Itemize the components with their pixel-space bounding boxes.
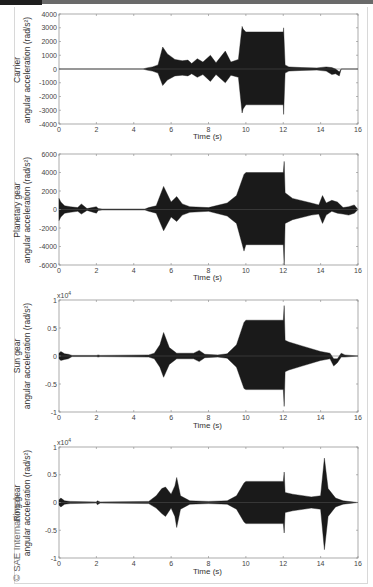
y-tick-label: 0.5 <box>47 471 57 478</box>
y-tick-label: -1 <box>51 555 57 562</box>
x-tick-label: 8 <box>207 560 211 567</box>
x-tick-label: 8 <box>207 126 211 133</box>
x-tick-label: 12 <box>279 560 287 567</box>
x-tick-label: 12 <box>279 267 287 274</box>
x-tick-label: 14 <box>317 560 325 567</box>
x-tick-label: 14 <box>317 126 325 133</box>
y-tick-label: -2000 <box>39 93 57 100</box>
y-tick-label: 1 <box>53 444 57 451</box>
x-tick-label: 4 <box>132 126 136 133</box>
x-tick-label: 6 <box>169 267 173 274</box>
x-tick-label: 0 <box>57 414 61 421</box>
y-tick-label: -2000 <box>39 225 57 232</box>
x-tick-label: 6 <box>169 560 173 567</box>
x-tick-label: 14 <box>317 267 325 274</box>
x-tick-label: 16 <box>354 560 362 567</box>
chart-1: 0246810121416-6000-4000-2000020004000600… <box>39 151 362 275</box>
y-tick-label: 1 <box>53 297 57 304</box>
y-tick-label: -0.5 <box>45 381 57 388</box>
y-tick-label: 0 <box>53 66 57 73</box>
x-tick-label: 16 <box>354 267 362 274</box>
x-tick-label: 4 <box>132 267 136 274</box>
y-tick-label: 4000 <box>41 169 57 176</box>
y-tick-label: -6000 <box>39 262 57 269</box>
y-tick-label: 0 <box>53 499 57 506</box>
chart-3: 0246810121416-1-0.500.51 <box>45 444 362 568</box>
x-tick-label: 8 <box>207 414 211 421</box>
x-tick-label: 2 <box>94 414 98 421</box>
y-tick-label: 1000 <box>41 52 57 59</box>
x-tick-label: 8 <box>207 267 211 274</box>
x-tick-label: 10 <box>242 126 250 133</box>
y-tick-label: 0 <box>53 353 57 360</box>
x-tick-label: 16 <box>354 414 362 421</box>
x-tick-label: 0 <box>57 126 61 133</box>
y-tick-label: -1 <box>51 409 57 416</box>
y-tick-label: 0 <box>53 206 57 213</box>
x-tick-label: 16 <box>354 126 362 133</box>
x-tick-label: 2 <box>94 267 98 274</box>
y-tick-label: -0.5 <box>45 527 57 534</box>
x-tick-label: 12 <box>279 126 287 133</box>
x-tick-label: 6 <box>169 126 173 133</box>
x-tick-label: 2 <box>94 560 98 567</box>
x-tick-label: 4 <box>132 414 136 421</box>
x-tick-label: 10 <box>242 267 250 274</box>
y-tick-label: 6000 <box>41 151 57 158</box>
chart-2: 0246810121416-1-0.500.51 <box>45 297 362 422</box>
y-tick-label: -4000 <box>39 121 57 128</box>
x-tick-label: 10 <box>242 414 250 421</box>
y-tick-label: 4000 <box>41 11 57 18</box>
x-tick-label: 10 <box>242 560 250 567</box>
chart-0: 0246810121416-4000-3000-2000-10000100020… <box>39 11 362 134</box>
y-tick-label: -3000 <box>39 107 57 114</box>
x-tick-label: 2 <box>94 126 98 133</box>
y-tick-label: 0.5 <box>47 325 57 332</box>
copyright-notice: © SAE International <box>11 486 22 582</box>
y-tick-label: 2000 <box>41 188 57 195</box>
x-tick-label: 4 <box>132 560 136 567</box>
x-tick-label: 6 <box>169 414 173 421</box>
x-tick-label: 0 <box>57 560 61 567</box>
plot-canvas: 0246810121416-4000-3000-2000-10000100020… <box>0 0 373 587</box>
y-tick-label: -1000 <box>39 79 57 86</box>
x-tick-label: 12 <box>279 414 287 421</box>
x-tick-label: 14 <box>317 414 325 421</box>
y-tick-label: 2000 <box>41 38 57 45</box>
x-tick-label: 0 <box>57 267 61 274</box>
y-tick-label: -4000 <box>39 243 57 250</box>
y-tick-label: 3000 <box>41 24 57 31</box>
